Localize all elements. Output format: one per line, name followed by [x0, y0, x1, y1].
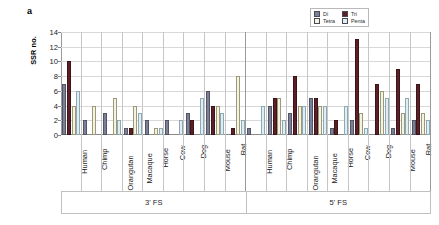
- y-axis-title: SSR no.: [29, 16, 38, 86]
- group-band-label: 3' FS: [62, 192, 247, 213]
- bar-tri-chimp: [273, 98, 277, 135]
- category-cell-mouse: Mouse: [390, 136, 411, 192]
- plot-area: 02468101214: [61, 32, 431, 135]
- y-tick-label: 10: [50, 57, 58, 66]
- panel-5prime-fs: [246, 32, 431, 135]
- bar-tri-macaque: [314, 98, 318, 135]
- bar-tetra-cow: [359, 113, 363, 135]
- bar-tetra-horse: [154, 128, 158, 135]
- bar-group-dog: [184, 32, 205, 135]
- legend-label: Penta: [351, 18, 365, 24]
- bar-di-horse: [145, 120, 149, 135]
- category-cell-chimp: Chimp: [267, 136, 288, 192]
- bar-tetra-mouse: [216, 106, 220, 135]
- legend-item-tetra: Tetra: [314, 18, 335, 24]
- bar-tetra-macaque: [133, 106, 137, 135]
- legend-label: Tetra: [323, 18, 335, 24]
- legend-item-penta: Penta: [342, 18, 365, 24]
- bar-tri-horse: [334, 120, 338, 135]
- bar-group-horse: [143, 32, 164, 135]
- bar-di-cow: [165, 120, 169, 135]
- bar-di-chimp: [268, 106, 272, 135]
- bar-tetra-human: [72, 106, 76, 135]
- bar-di-rat: [412, 120, 416, 135]
- bar-tri-human: [67, 61, 71, 135]
- bar-tri-mouse: [396, 69, 400, 135]
- bar-group-cow: [164, 32, 185, 135]
- category-cell-mouse: Mouse: [205, 136, 226, 192]
- chart-legend: DiTriTetraPenta: [310, 8, 369, 27]
- bar-tetra-chimp: [92, 106, 96, 135]
- bar-group-macaque: [308, 32, 329, 135]
- bar-di-mouse: [391, 128, 395, 135]
- bar-group-rat: [411, 32, 432, 135]
- category-divider: [430, 136, 431, 192]
- bar-groups: [61, 32, 431, 135]
- bar-di-human: [247, 128, 251, 135]
- bar-tri-macaque: [129, 128, 133, 135]
- bar-tetra-orangutan: [113, 98, 117, 135]
- category-cell-rat: Rat: [411, 136, 432, 192]
- legend-item-di: Di: [314, 11, 335, 17]
- x-tick-label: Rat: [424, 144, 433, 156]
- group-band-label: 5' FS: [247, 192, 431, 213]
- bar-tri-rat: [416, 84, 420, 136]
- panel-letter: a: [27, 6, 32, 16]
- legend-swatch-tetra: [314, 18, 320, 24]
- bar-group-orangutan: [102, 32, 123, 135]
- bar-di-cow: [350, 120, 354, 135]
- bar-tri-orangutan: [293, 76, 297, 135]
- bar-group-human: [246, 32, 267, 135]
- category-cell-horse: Horse: [328, 136, 349, 192]
- bar-tri-rat: [231, 128, 235, 135]
- group-band: 3' FS5' FS: [61, 192, 431, 214]
- bar-group-mouse: [205, 32, 226, 135]
- bar-group-chimp: [267, 32, 288, 135]
- category-labels: HumanChimpOrangutanMacaqueHorseCowDogMou…: [61, 136, 431, 192]
- bar-tetra-mouse: [401, 113, 405, 135]
- panel-labels-5prime-fs: HumanChimpOrangutanMacaqueHorseCowDogMou…: [246, 136, 431, 192]
- legend-label: Di: [323, 11, 328, 17]
- legend-item-tri: Tri: [342, 11, 365, 17]
- category-cell-rat: Rat: [226, 136, 247, 192]
- legend-label: Tri: [351, 11, 357, 17]
- bar-di-macaque: [309, 98, 313, 135]
- category-cell-macaque: Macaque: [123, 136, 144, 192]
- bar-tri-cow: [355, 39, 359, 135]
- category-cell-dog: Dog: [369, 136, 390, 192]
- bar-group-chimp: [82, 32, 103, 135]
- panel-3prime-fs: [61, 32, 246, 135]
- bar-di-orangutan: [288, 113, 292, 135]
- category-cell-horse: Horse: [143, 136, 164, 192]
- y-tick-label: 12: [50, 42, 58, 51]
- category-cell-human: Human: [61, 136, 82, 192]
- bar-group-horse: [328, 32, 349, 135]
- bar-di-orangutan: [103, 113, 107, 135]
- bar-group-dog: [369, 32, 390, 135]
- category-cell-orangutan: Orangutan: [287, 136, 308, 192]
- bar-di-macaque: [124, 128, 128, 135]
- bar-tri-dog: [190, 120, 194, 135]
- bar-tetra-macaque: [318, 106, 322, 135]
- category-cell-cow: Cow: [164, 136, 185, 192]
- legend-swatch-di: [314, 11, 320, 17]
- category-cell-human: Human: [246, 136, 267, 192]
- bar-group-rat: [226, 32, 247, 135]
- bar-di-chimp: [83, 120, 87, 135]
- bar-tetra-chimp: [277, 98, 281, 135]
- category-cell-cow: Cow: [349, 136, 370, 192]
- category-cell-macaque: Macaque: [308, 136, 329, 192]
- y-tick-label: 14: [50, 28, 58, 37]
- bar-di-horse: [330, 128, 334, 135]
- bar-di-human: [62, 84, 66, 136]
- bar-tetra-rat: [236, 76, 240, 135]
- bar-group-cow: [349, 32, 370, 135]
- category-cell-dog: Dog: [184, 136, 205, 192]
- bar-group-mouse: [390, 32, 411, 135]
- bar-tri-dog: [375, 84, 379, 136]
- panel-labels-3prime-fs: HumanChimpOrangutanMacaqueHorseCowDogMou…: [61, 136, 246, 192]
- bar-group-orangutan: [287, 32, 308, 135]
- bar-tetra-dog: [380, 91, 384, 135]
- bar-tetra-orangutan: [298, 106, 302, 135]
- bar-tetra-rat: [421, 113, 425, 135]
